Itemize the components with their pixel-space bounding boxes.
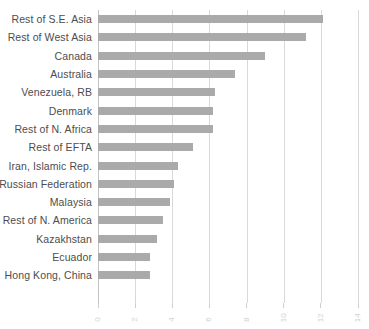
- x-axis-tick: 6: [200, 303, 218, 326]
- bar-row[interactable]: [98, 175, 358, 193]
- gridline: [358, 10, 359, 303]
- bar[interactable]: [98, 88, 215, 96]
- bar-row[interactable]: [98, 138, 358, 156]
- y-axis-tick-label: Iran, Islamic Rep.: [9, 160, 93, 172]
- y-axis-label-row: Ecuador: [0, 248, 92, 266]
- bar[interactable]: [98, 33, 306, 41]
- y-axis-label-row: Malaysia: [0, 193, 92, 211]
- x-axis-tick-mark: [98, 303, 99, 308]
- bars-container: [98, 10, 358, 303]
- bar[interactable]: [98, 52, 265, 60]
- x-axis-tick-mark: [320, 303, 321, 308]
- y-axis-tick-label: Australia: [50, 68, 92, 80]
- x-axis: 02468101214: [98, 303, 358, 329]
- y-axis-label-row: Rest of S.E. Asia: [0, 10, 92, 28]
- y-axis-tick-label: Malaysia: [50, 196, 92, 208]
- y-axis-tick-label: Ecuador: [52, 251, 92, 263]
- bar-row[interactable]: [98, 65, 358, 83]
- bar-row[interactable]: [98, 120, 358, 138]
- x-axis-tick: 14: [349, 303, 367, 326]
- bar[interactable]: [98, 162, 178, 170]
- bar[interactable]: [98, 235, 157, 243]
- y-axis-label-row: Canada: [0, 47, 92, 65]
- y-axis-label-row: Rest of N. America: [0, 211, 92, 229]
- plot-area: [98, 10, 358, 303]
- x-axis-tick: 8: [238, 303, 256, 326]
- y-axis-tick-label: Rest of West Asia: [8, 31, 92, 43]
- x-axis-tick-label: 4: [168, 317, 176, 322]
- bar-row[interactable]: [98, 47, 358, 65]
- x-axis-tick: 12: [312, 303, 330, 326]
- bar-row[interactable]: [98, 193, 358, 211]
- x-axis-tick-mark: [246, 303, 247, 308]
- y-axis-tick-label: Venezuela, RB: [21, 86, 92, 98]
- x-axis-tick-label: 10: [280, 313, 288, 322]
- bar[interactable]: [98, 125, 213, 133]
- bar-chart: Rest of S.E. Asia Rest of West Asia Cana…: [0, 0, 369, 329]
- bar[interactable]: [98, 216, 163, 224]
- y-axis-label-row: Rest of West Asia: [0, 28, 92, 46]
- bar-row[interactable]: [98, 156, 358, 174]
- y-axis-tick-label: Rest of EFTA: [29, 141, 92, 153]
- y-axis-tick-label: Denmark: [49, 105, 92, 117]
- y-axis-label-row: Rest of N. Africa: [0, 120, 92, 138]
- y-axis-label-row: Kazakhstan: [0, 230, 92, 248]
- y-axis-tick-label: Rest of N. America: [3, 214, 92, 226]
- y-axis-tick-label: Hong Kong, China: [5, 269, 92, 281]
- y-axis-label-row: Rest of EFTA: [0, 138, 92, 156]
- y-axis-label-row: Denmark: [0, 101, 92, 119]
- y-axis-tick-label: Kazakhstan: [36, 233, 92, 245]
- y-axis-tick-label: Canada: [55, 50, 92, 62]
- bar[interactable]: [98, 198, 170, 206]
- x-axis-tick-label: 8: [243, 317, 251, 322]
- bar-row[interactable]: [98, 101, 358, 119]
- bar-row[interactable]: [98, 266, 358, 284]
- x-axis-tick-label: 0: [94, 317, 102, 322]
- x-axis-tick-label: 14: [354, 313, 362, 322]
- bar-row[interactable]: [98, 230, 358, 248]
- y-axis-label-row: Australia: [0, 65, 92, 83]
- x-axis-tick-label: 6: [205, 317, 213, 322]
- y-axis-labels: Rest of S.E. Asia Rest of West Asia Cana…: [0, 10, 92, 303]
- bar[interactable]: [98, 107, 213, 115]
- bar-row[interactable]: [98, 28, 358, 46]
- bar-row[interactable]: [98, 248, 358, 266]
- bar-row[interactable]: [98, 10, 358, 28]
- x-axis-tick-mark: [283, 303, 284, 308]
- y-axis-label-row: Hong Kong, China: [0, 266, 92, 284]
- y-axis-label-row: Russian Federation: [0, 175, 92, 193]
- bar[interactable]: [98, 70, 235, 78]
- x-axis-tick-label: 12: [317, 313, 325, 322]
- bar-row[interactable]: [98, 83, 358, 101]
- bar[interactable]: [98, 180, 174, 188]
- y-axis-tick-label: Russian Federation: [0, 178, 92, 190]
- y-axis-tick-label: Rest of S.E. Asia: [12, 13, 93, 25]
- x-axis-tick-label: 2: [131, 317, 139, 322]
- x-axis-tick: 2: [126, 303, 144, 326]
- x-axis-tick: 0: [89, 303, 107, 326]
- bar-row[interactable]: [98, 211, 358, 229]
- y-axis-label-row: Venezuela, RB: [0, 83, 92, 101]
- x-axis-tick-mark: [209, 303, 210, 308]
- bar[interactable]: [98, 253, 150, 261]
- bar[interactable]: [98, 271, 150, 279]
- y-axis-label-row: Iran, Islamic Rep.: [0, 156, 92, 174]
- x-axis-tick-mark: [135, 303, 136, 308]
- bar[interactable]: [98, 15, 323, 23]
- x-axis-tick-mark: [358, 303, 359, 308]
- x-axis-tick: 10: [275, 303, 293, 326]
- x-axis-tick-mark: [172, 303, 173, 308]
- y-axis-tick-label: Rest of N. Africa: [14, 123, 92, 135]
- bar[interactable]: [98, 143, 193, 151]
- x-axis-tick: 4: [163, 303, 181, 326]
